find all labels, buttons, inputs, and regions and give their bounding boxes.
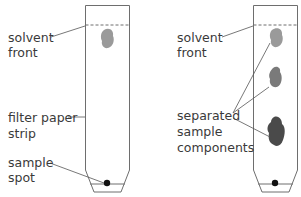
left-filter-paper-strip: [50, 6, 130, 193]
left-spot-component: [101, 29, 114, 48]
label-solvent-front-right-line1: solvent: [177, 30, 223, 45]
label-sample-spot-line1: sample: [8, 155, 53, 170]
label-filter-paper-line2: strip: [8, 126, 36, 141]
right-filter-paper-strip: [222, 6, 298, 193]
label-separated-line3: components: [177, 140, 254, 155]
label-separated-line2: sample: [177, 124, 222, 139]
right-sample-dot: [272, 180, 278, 186]
label-solvent-front-left-line1: solvent: [8, 30, 54, 45]
label-solvent-front-right-line2: front: [177, 45, 207, 60]
left-sample-dot: [104, 180, 110, 186]
label-separated-line1: separated: [177, 108, 240, 123]
right-spot-light: [270, 28, 283, 47]
label-sample-spot-line2: spot: [8, 170, 35, 185]
label-filter-paper-line1: filter paper: [8, 110, 77, 125]
label-solvent-front-left-line2: front: [8, 45, 38, 60]
